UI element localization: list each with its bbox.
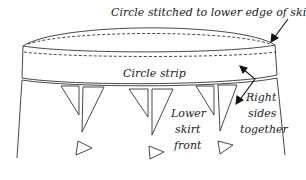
label-lower-skirt-3: front (173, 139, 202, 152)
arrow-top (274, 19, 288, 38)
arrow-top-head (271, 34, 278, 42)
label-circle-strip: Circle strip (123, 67, 186, 80)
skirt-right-side (277, 78, 285, 155)
label-circle-stitched: Circle stitched to lower edge of skirt (111, 6, 306, 19)
notch-1 (76, 141, 92, 155)
dart-2 (129, 89, 173, 135)
skirt-left-side (17, 80, 22, 158)
dart-1 (61, 86, 104, 132)
label-right-sides-1: Right (245, 91, 277, 104)
circle-rim-outer (23, 28, 275, 46)
notch-2 (149, 146, 164, 159)
notch-3 (218, 141, 233, 154)
label-right-sides-2: sides (248, 107, 277, 120)
circle-strip-stitch (24, 52, 276, 57)
circle-rim-inner (23, 45, 275, 52)
label-lower-skirt-2: skirt (175, 123, 201, 136)
label-right-sides-3: together (240, 123, 289, 136)
strip-right-edge (275, 45, 277, 75)
circle-rim-stitch (28, 34, 270, 45)
label-lower-skirt-1: Lower (170, 107, 207, 120)
strip-left-edge (22, 46, 23, 78)
skirt-diagram: Circle stitched to lower edge of skirt C… (0, 0, 306, 180)
